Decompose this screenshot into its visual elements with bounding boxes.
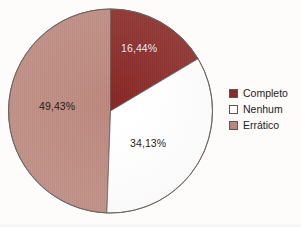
pie-label-completo: 16,44% <box>121 42 157 54</box>
chart-legend: Completo Nenhum Errático <box>229 86 299 134</box>
legend-swatch-nenhum <box>229 105 238 114</box>
legend-swatch-completo <box>229 89 238 98</box>
legend-item-erratico[interactable]: Errático <box>229 118 299 133</box>
pie-label-erratico: 49,43% <box>39 100 75 112</box>
legend-swatch-erratico <box>229 121 238 130</box>
legend-item-completo[interactable]: Completo <box>229 86 299 101</box>
legend-label-nenhum: Nenhum <box>243 104 283 115</box>
pie-label-nenhum: 34,13% <box>130 137 166 149</box>
legend-item-nenhum[interactable]: Nenhum <box>229 102 299 117</box>
legend-label-erratico: Errático <box>243 120 279 131</box>
legend-label-completo: Completo <box>243 88 288 99</box>
pie-chart-figure: 16,44% 34,13% 49,43% Completo Nenhum Err… <box>0 0 301 227</box>
